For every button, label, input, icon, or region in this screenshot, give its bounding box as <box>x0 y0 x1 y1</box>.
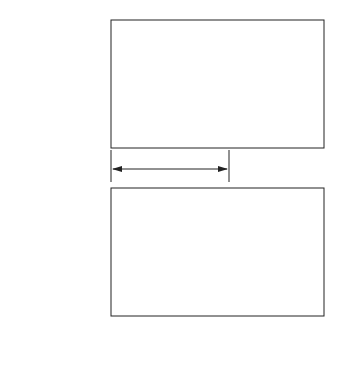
habitat-loss-annotation <box>111 150 229 182</box>
allele-frequency-panel <box>111 20 324 148</box>
chart-figure <box>0 0 343 370</box>
arrow-left-icon <box>112 166 122 172</box>
population-size-panel <box>111 188 324 316</box>
bottom-plot-frame <box>111 188 324 316</box>
top-plot-frame <box>111 20 324 148</box>
arrow-right-icon <box>218 166 228 172</box>
